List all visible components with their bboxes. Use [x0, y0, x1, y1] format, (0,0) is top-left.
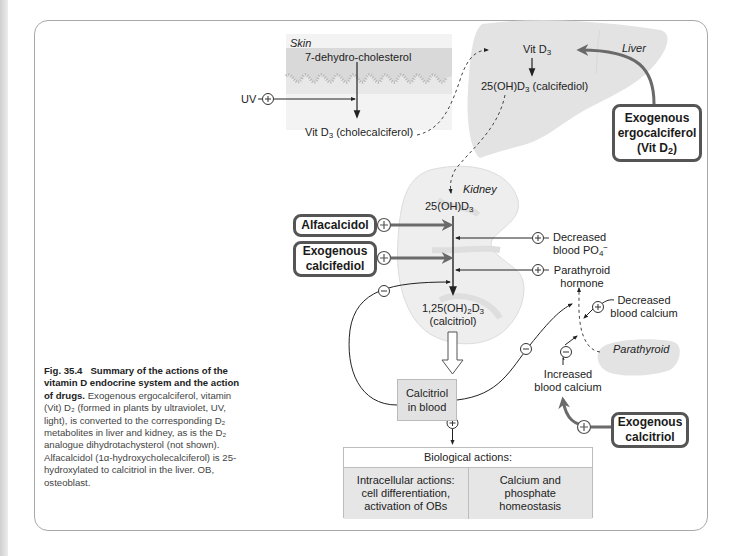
calcitriol-in-blood-box: Calcitriolin blood	[397, 379, 457, 421]
calcitriol-product-label: 1,25(OH)2D3 (calcitriol)	[420, 302, 486, 328]
biological-actions-table: Biological actions: Intracellular action…	[343, 447, 593, 518]
skin-label: Skin	[290, 37, 311, 50]
kidney-25ohd3-label: 25(OH)D3	[425, 200, 473, 213]
calcifediol-label: 25(OH)D3 (calcifediol)	[481, 80, 588, 93]
drug-box-alfacalcidol: Alfacalcidol	[293, 214, 377, 237]
decreased-calcium-label: Decreased blood calcium	[606, 294, 682, 320]
biological-actions-header: Biological actions:	[344, 448, 592, 468]
7-dehydrocholesterol-label: 7-dehydro-cholesterol	[305, 51, 411, 64]
uv-label: UV	[241, 93, 256, 106]
liver-label: Liver	[622, 42, 646, 55]
intracellular-actions-cell: Intracellular actions:cell differentiati…	[344, 468, 468, 519]
drug-box-calcifediol: Exogenouscalcifediol	[293, 241, 377, 277]
parathyroid-label: Parathyroid	[613, 343, 669, 356]
cholecalciferol-label: Vit D3 (cholecalciferol)	[305, 126, 413, 139]
drug-box-ergocalciferol: Exogenousergocalciferol(Vit D2)	[612, 104, 702, 162]
decreased-phosphate-label: Decreased blood PO4−	[553, 231, 608, 257]
drug-box-calcitriol: Exogenouscalcitriol	[611, 412, 689, 448]
figure-number: Fig. 35.4	[44, 365, 82, 376]
increased-calcium-label: Increased blood calcium	[532, 368, 604, 394]
calcium-phosphate-cell: Calcium andphosphatehomeostasis	[468, 468, 593, 519]
liver-vitd3-label: Vit D3	[523, 43, 551, 56]
kidney-label: Kidney	[463, 183, 497, 196]
figure-caption: Fig. 35.4 Summary of the actions of the …	[44, 365, 244, 489]
pth-label: Parathyroid hormone	[546, 264, 618, 290]
